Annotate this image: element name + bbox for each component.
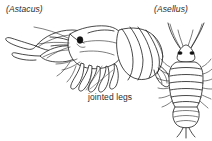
jointed-legs-annotation: jointed legs (88, 92, 132, 102)
abdomen (117, 27, 170, 87)
body-segments-right (169, 62, 203, 111)
pleotelson-right (173, 107, 199, 128)
label-astacus: (Astacus) (6, 4, 43, 14)
uropods-right (177, 128, 195, 138)
figure-container: (Astacus) (Asellus) jointed legs (0, 0, 212, 141)
astacus-illustration (0, 0, 212, 141)
label-asellus: (Asellus) (154, 4, 188, 14)
asellus-illustration (157, 23, 212, 138)
